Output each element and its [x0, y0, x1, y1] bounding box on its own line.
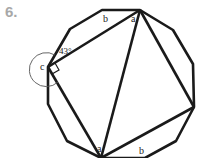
dodecagon-diagram: c 43° b a a b — [0, 0, 203, 158]
diagonal-top-right — [140, 10, 194, 107]
label-top-b: b — [103, 13, 108, 24]
label-bottom-a: a — [97, 143, 102, 154]
label-c: c — [40, 61, 45, 72]
diagonal-top-bottom — [101, 10, 140, 158]
label-angle-43: 43° — [59, 46, 72, 56]
label-bottom-b: b — [139, 145, 144, 156]
label-top-a: a — [131, 13, 136, 24]
